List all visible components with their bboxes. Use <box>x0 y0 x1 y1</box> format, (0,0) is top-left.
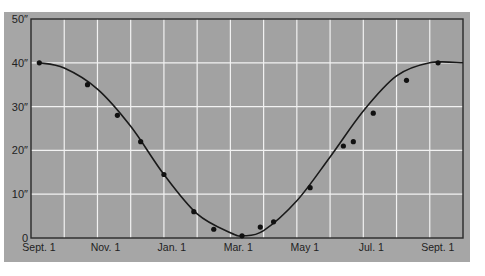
data-point <box>211 227 216 232</box>
data-point <box>138 139 143 144</box>
data-point <box>341 143 346 148</box>
data-point <box>85 82 90 87</box>
x-tick-label: Sept. 1 <box>421 241 454 253</box>
x-tick-label: Mar. 1 <box>224 241 253 253</box>
data-point <box>271 219 276 224</box>
plot-area <box>31 19 463 238</box>
data-point <box>371 111 376 116</box>
y-tick-label: 10″ <box>12 188 28 200</box>
x-tick-label: Nov. 1 <box>91 241 121 253</box>
x-tick-label: Jan. 1 <box>158 241 187 253</box>
data-point <box>161 172 166 177</box>
x-tick-label: Sept. 1 <box>22 241 55 253</box>
x-tick-label: May 1 <box>291 241 320 253</box>
data-point <box>191 209 196 214</box>
data-point <box>258 224 263 229</box>
data-point <box>308 185 313 190</box>
data-point <box>351 139 356 144</box>
data-point <box>435 60 440 65</box>
data-point <box>37 60 42 65</box>
data-point <box>239 233 244 238</box>
y-tick-label: 30″ <box>12 101 28 113</box>
data-point <box>115 113 120 118</box>
y-tick-label: 40″ <box>12 57 28 69</box>
data-point <box>404 78 409 83</box>
y-tick-label: 20″ <box>12 144 28 156</box>
chart-plot: 010″20″30″40″50″Sept. 1Nov. 1Jan. 1Mar. … <box>0 0 485 276</box>
x-tick-label: Jul. 1 <box>359 241 384 253</box>
y-tick-label: 50″ <box>12 13 28 25</box>
